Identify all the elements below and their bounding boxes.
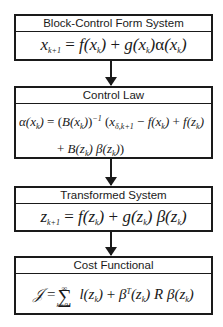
equation-cost: 𝒥 =∑∞k=0 l(zk) + βT(zk) R β(zk) [16, 274, 211, 318]
arrow-down [110, 157, 112, 185]
block-control-form-system: Block-Control Form System xk+1 = f(xk) +… [14, 14, 213, 61]
block-transformed-system: Transformed System zk+1 = f(zk) + g(zk) … [14, 186, 213, 232]
block-title: Cost Functional [16, 258, 211, 274]
block-control-law: Control Law α(xk) = (B(xk))−1 (xδ,k+1 − … [14, 86, 213, 159]
equation-system: xk+1 = f(xk) + g(xk)α(xk) [16, 32, 211, 64]
block-title: Transformed System [16, 188, 211, 204]
equation-control-law: α(xk) = (B(xk))−1 (xδ,k+1 − f(xk) + f(zk… [16, 104, 211, 165]
block-cost-functional: Cost Functional 𝒥 =∑∞k=0 l(zk) + βT(zk) … [14, 256, 213, 315]
equation-transformed: zk+1 = f(zk) + g(zk) β(zk) [16, 204, 211, 236]
arrow-down [110, 230, 112, 255]
block-title: Block-Control Form System [16, 16, 211, 32]
arrow-down [110, 59, 112, 85]
summation-symbol: ∑∞k=0 [57, 278, 71, 314]
block-title: Control Law [16, 88, 211, 104]
